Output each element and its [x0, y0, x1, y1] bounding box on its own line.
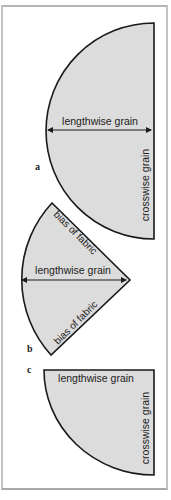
figure-label-a: a [35, 161, 40, 172]
crosswise-grain-label-c: crosswise grain [139, 392, 151, 465]
quarter-circle-shape-c [44, 370, 154, 475]
figure-label-b: b [27, 343, 33, 354]
figure-label-c: c [27, 364, 32, 375]
lengthwise-grain-label-a: lengthwise grain [62, 115, 138, 127]
lengthwise-grain-label-b: lengthwise grain [35, 264, 111, 276]
circular-skirt-diagram: lengthwise grain crosswise grain a lengt… [0, 0, 171, 500]
lengthwise-grain-label-c: lengthwise grain [58, 372, 134, 384]
semicircle-shape-a [46, 23, 154, 239]
figure-c: lengthwise grain crosswise grain c [27, 364, 154, 475]
crosswise-grain-label-a: crosswise grain [139, 149, 151, 222]
